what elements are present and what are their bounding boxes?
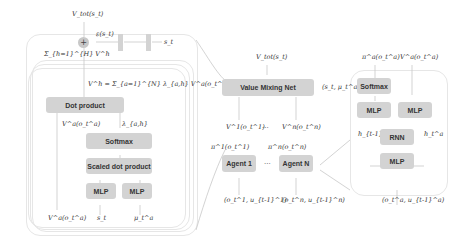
sum-heads-label: Σ_{h=1}^{H} V^h: [44, 50, 110, 58]
epsilon-label: ε(s_t): [96, 30, 114, 38]
bottom-input-va: V^a(o_t^a): [48, 214, 86, 222]
sum-node: +: [78, 37, 89, 48]
vtot-label-left: V_tot(s_t): [72, 10, 103, 18]
right-input-label: (o_t^a, u_{t-1}^a): [382, 196, 444, 204]
v1-label: V^1(o_t^1): [226, 123, 265, 131]
scaled-dot-product-box: Scaled dot product: [86, 158, 152, 174]
softmax-box-left: Softmax: [86, 133, 152, 149]
input-1-label: (o_t^1, u_{t-1}^1): [224, 196, 287, 204]
v-a-label: V^a(o_t^a): [400, 53, 438, 61]
pi-a-label: π^a(o_t^a): [362, 53, 400, 61]
input-n-label: (o_t^n, u_{t-1}^n): [282, 196, 345, 204]
state-label-top: s_t: [164, 38, 173, 46]
head-formula: V^h = Σ_{a=1}^{N} λ_{a,h} V^a(o_t^a): [88, 80, 229, 88]
rnn-box: RNN: [380, 129, 414, 145]
pi1-label: π^1(o_t^1): [211, 143, 249, 151]
vtot-label-mid: V_tot(s_t): [256, 53, 287, 61]
ellipsis-mid: ...: [264, 158, 271, 166]
mlp-box-right-bottom: MLP: [380, 153, 414, 169]
bottom-input-mu: μ_t^a: [134, 214, 153, 222]
pin-label: π^n(o_t^n): [268, 143, 306, 151]
ellipsis-top: ...: [262, 122, 269, 130]
softmax-box-right: Softmax: [357, 78, 391, 94]
h-next-label: h_t^a: [424, 130, 443, 138]
agent-1-box: Agent 1: [222, 155, 256, 172]
lambda-label: λ_{a,h}: [122, 120, 148, 128]
value-mixing-net-box: Value Mixing Net: [222, 79, 314, 96]
vn-label: V^n(o_t^n): [282, 123, 321, 131]
state-bar-1: [118, 34, 123, 51]
state-bar-2: [146, 34, 151, 51]
va-label: V^a(o_t^a): [62, 120, 100, 128]
bottom-input-st: s_t: [97, 214, 106, 222]
mlp-box-right-1: MLP: [357, 102, 391, 118]
mixing-input-label: (s_t, μ_t^a): [322, 83, 360, 91]
mlp-box-right-2: MLP: [398, 102, 432, 118]
agent-n-box: Agent N: [279, 155, 313, 172]
dot-product-box: Dot product: [46, 97, 124, 113]
mlp-box-left-1: MLP: [86, 183, 116, 199]
mlp-box-left-2: MLP: [122, 183, 152, 199]
